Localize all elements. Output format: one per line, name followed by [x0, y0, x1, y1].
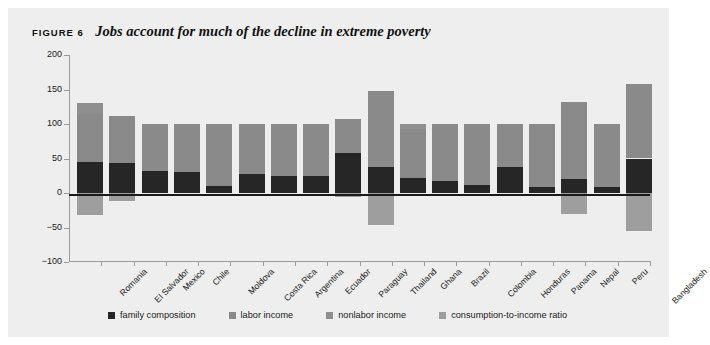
legend-item[interactable]: labor income: [229, 310, 294, 320]
x-axis-category-label: Brazil: [469, 265, 493, 289]
bar-segment: [400, 129, 426, 178]
bar-group[interactable]: [303, 55, 329, 262]
y-axis-tick-label: 100: [16, 118, 62, 128]
bar-segment: [206, 124, 232, 186]
bar-segment: [368, 167, 394, 193]
y-axis-tick-label: −100: [16, 256, 62, 266]
bar-group[interactable]: [271, 55, 297, 262]
bar-segment: [432, 124, 458, 181]
legend-swatch-icon: [108, 312, 115, 319]
legend-item-label: consumption-to-income ratio: [451, 310, 567, 320]
bar-group[interactable]: [239, 55, 265, 262]
bar-segment: [561, 179, 587, 193]
x-axis-category-label: Ecuador: [343, 265, 374, 296]
y-axis-tick-label: 150: [16, 84, 62, 94]
x-axis-category-label: Honduras: [538, 265, 573, 300]
bar-segment: [77, 162, 103, 193]
legend-item-label: labor income: [241, 310, 294, 320]
bar-group[interactable]: [206, 55, 232, 262]
x-axis-category-label: Moldova: [246, 265, 277, 296]
y-axis-tick-label: −50: [16, 222, 62, 232]
bar-group[interactable]: [335, 55, 361, 262]
bar-segment-negative: [77, 193, 103, 215]
bar-segment: [77, 103, 103, 113]
bar-segment: [529, 124, 555, 187]
bar-segment: [142, 124, 168, 171]
legend-swatch-icon: [326, 312, 333, 319]
bar-group[interactable]: [174, 55, 200, 262]
x-axis-category-label: Paraguay: [377, 265, 412, 300]
bar-segment: [400, 124, 426, 129]
zero-reference-line: [69, 194, 650, 196]
x-axis-labels: RomaniaEl SalvadorMexicoChileMoldovaCost…: [69, 263, 650, 313]
bar-group[interactable]: [464, 55, 490, 262]
bar-segment: [497, 124, 523, 167]
legend-item-label: nonlabor income: [338, 310, 406, 320]
bar-segment: [239, 124, 265, 174]
bar-segment: [335, 119, 361, 153]
bar-segment: [626, 84, 652, 159]
bar-group[interactable]: [77, 55, 103, 262]
bar-segment-negative: [561, 193, 587, 214]
y-axis-tick-label: 50: [16, 153, 62, 163]
bar-segment: [174, 124, 200, 172]
bar-segment: [626, 159, 652, 194]
bar-segment: [561, 102, 587, 179]
y-axis-tick-label: 200: [16, 49, 62, 59]
bar-group[interactable]: [142, 55, 168, 262]
bar-segment-negative: [368, 193, 394, 225]
bar-segment: [464, 185, 490, 193]
bar-group[interactable]: [497, 55, 523, 262]
legend-item[interactable]: nonlabor income: [326, 310, 406, 320]
legend-swatch-icon: [439, 312, 446, 319]
bar-group[interactable]: [109, 55, 135, 262]
chart-legend: family compositionlabor incomenonlabor i…: [108, 310, 600, 320]
x-axis-tick-mark: [650, 261, 651, 266]
bar-segment: [239, 174, 265, 193]
bar-group[interactable]: [432, 55, 458, 262]
bar-group[interactable]: [368, 55, 394, 262]
x-axis-category-label: Colombia: [506, 265, 540, 299]
bar-group[interactable]: [561, 55, 587, 262]
legend-item[interactable]: family composition: [108, 310, 196, 320]
x-axis-category-label: Nepal: [598, 265, 622, 289]
bar-group[interactable]: [626, 55, 652, 262]
bars-layer: [69, 55, 650, 262]
legend-item-label: family composition: [120, 310, 196, 320]
bar-segment: [497, 167, 523, 193]
bar-segment: [142, 171, 168, 193]
plot-area: percentage of total change in extreme po…: [8, 8, 669, 337]
bar-segment: [594, 187, 620, 193]
bar-segment: [271, 176, 297, 193]
bar-segment: [529, 187, 555, 193]
y-axis-tick-label: 0: [16, 187, 62, 197]
bar-segment: [271, 124, 297, 176]
bar-group[interactable]: [400, 55, 426, 262]
bar-segment: [77, 114, 103, 162]
bar-segment-negative: [626, 193, 652, 231]
bar-segment: [109, 116, 135, 162]
x-axis-category-label: Romania: [118, 265, 151, 298]
x-axis-category-label: Costa Rica: [281, 265, 319, 303]
legend-swatch-icon: [229, 312, 236, 319]
bar-segment: [594, 124, 620, 187]
bar-segment: [432, 181, 458, 193]
x-axis-category-label: Chile: [210, 265, 232, 287]
bar-segment: [174, 172, 200, 193]
figure-panel: FIGURE 6 Jobs account for much of the de…: [8, 8, 669, 337]
bar-group[interactable]: [529, 55, 555, 262]
bar-segment: [464, 124, 490, 185]
x-axis-category-label: Peru: [629, 265, 650, 286]
bar-segment: [368, 91, 394, 168]
bar-segment: [109, 163, 135, 193]
bar-segment: [400, 178, 426, 193]
bar-segment: [303, 176, 329, 193]
x-axis-category-label: Ghana: [438, 265, 465, 292]
bar-segment: [335, 153, 361, 193]
legend-item[interactable]: consumption-to-income ratio: [439, 310, 567, 320]
x-axis-category-label: Bangladesh: [670, 265, 710, 306]
x-axis-category-label: Panama: [569, 265, 600, 296]
bar-group[interactable]: [594, 55, 620, 262]
x-axis-category-label: Thailand: [408, 265, 440, 297]
bar-segment: [206, 186, 232, 193]
